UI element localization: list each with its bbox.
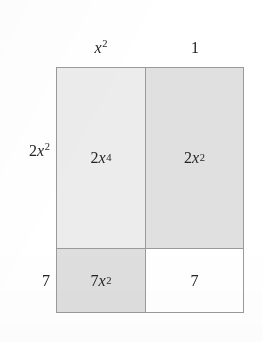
row-label-top-exponent: 2 [45, 141, 50, 152]
grid-cell-top-right: 2x2 [145, 67, 244, 249]
column-header-left: x2 [56, 40, 146, 56]
cell-top-left-base: x [99, 150, 106, 166]
cell-top-left-coefficient: 2 [91, 150, 99, 166]
area-model-grid: 2x4 2x2 7x2 7 [56, 67, 244, 313]
cell-bottom-left-base: x [99, 273, 106, 289]
grid-cell-top-left: 2x4 [56, 67, 146, 249]
row-label-top-coefficient: 2 [29, 142, 37, 159]
row-label-bottom-coefficient: 7 [42, 272, 50, 289]
column-header-left-base: x [95, 39, 102, 56]
row-label-top-base: x [37, 142, 44, 159]
cell-top-right-coefficient: 2 [184, 150, 192, 166]
cell-bottom-left-coefficient: 7 [91, 273, 99, 289]
grid-cell-bottom-right: 7 [145, 248, 244, 313]
area-model-figure: x2 1 2x2 7 2x4 2x2 7x2 7 [0, 0, 263, 342]
column-header-left-exponent: 2 [102, 38, 107, 49]
row-label-bottom: 7 [0, 273, 50, 289]
column-header-right: 1 [146, 40, 244, 56]
cell-top-right-base: x [192, 150, 199, 166]
grid-cell-bottom-left: 7x2 [56, 248, 146, 313]
row-label-top: 2x2 [0, 143, 50, 159]
cell-bottom-right-coefficient: 7 [191, 273, 199, 289]
column-header-right-base: 1 [191, 39, 199, 56]
